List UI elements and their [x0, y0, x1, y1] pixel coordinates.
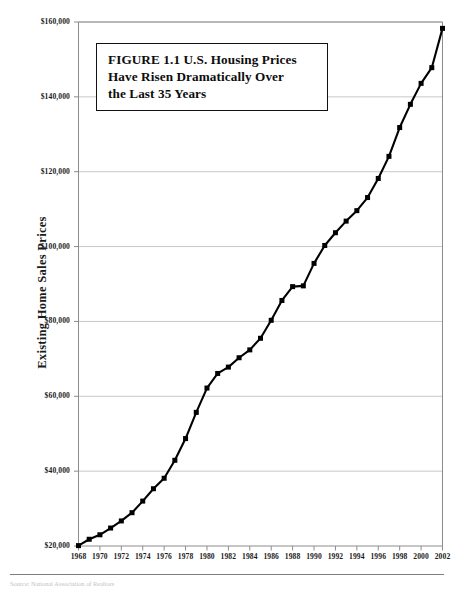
- data-point-1975: [151, 486, 156, 491]
- y-tick-label-160000: $160,000: [8, 17, 70, 26]
- figure-title-line-1: FIGURE 1.1 U.S. Housing Prices: [108, 52, 297, 67]
- figure-title-text: FIGURE 1.1 U.S. Housing Prices Have Rise…: [108, 51, 318, 102]
- y-tick-marks-group: [74, 22, 79, 546]
- y-tick-label-100000: $100,000: [8, 242, 70, 251]
- data-point-1988: [290, 284, 295, 289]
- data-point-1971: [108, 526, 113, 531]
- data-point-1999: [408, 102, 413, 107]
- figure-title-box: FIGURE 1.1 U.S. Housing Prices Have Rise…: [96, 43, 328, 111]
- data-point-1983: [237, 355, 242, 360]
- data-point-1979: [194, 410, 199, 415]
- data-point-1987: [279, 298, 284, 303]
- footer-divider: [10, 574, 444, 575]
- y-tick-label-80000: $80,000: [8, 316, 70, 325]
- y-tick-label-140000: $140,000: [8, 92, 70, 101]
- figure-title-line-3: the Last 35 Years: [108, 86, 206, 101]
- data-point-1976: [162, 476, 167, 481]
- data-point-1984: [247, 347, 252, 352]
- data-point-1980: [204, 386, 209, 391]
- data-point-1969: [87, 537, 92, 542]
- data-point-1977: [172, 458, 177, 463]
- x-tick-marks-group: [79, 546, 443, 551]
- data-point-1986: [269, 318, 274, 323]
- data-point-1994: [354, 208, 359, 213]
- data-point-1974: [140, 499, 145, 504]
- data-point-1997: [386, 154, 391, 159]
- data-point-1985: [258, 336, 263, 341]
- data-point-1968: [76, 543, 81, 548]
- data-point-1998: [397, 125, 402, 130]
- figure-title-line-2: Have Risen Dramatically Over: [108, 69, 284, 84]
- y-tick-label-20000: $20,000: [8, 541, 70, 550]
- data-point-1990: [312, 261, 317, 266]
- data-point-1991: [322, 243, 327, 248]
- figure-container: Existing Home Sales Prices $20,000$40,00…: [0, 0, 454, 591]
- source-note: Source: National Association of Realtors: [10, 580, 310, 591]
- y-tick-label-120000: $120,000: [8, 167, 70, 176]
- data-point-1996: [376, 176, 381, 181]
- data-point-1981: [215, 371, 220, 376]
- data-point-2001: [429, 65, 434, 70]
- data-point-1993: [344, 219, 349, 224]
- data-point-1978: [183, 436, 188, 441]
- data-point-1989: [301, 283, 306, 288]
- data-point-1982: [226, 365, 231, 370]
- data-point-1992: [333, 230, 338, 235]
- y-tick-label-60000: $60,000: [8, 391, 70, 400]
- y-tick-label-40000: $40,000: [8, 466, 70, 475]
- data-point-1995: [365, 195, 370, 200]
- data-point-1972: [119, 518, 124, 523]
- data-point-1970: [97, 532, 102, 537]
- data-point-2000: [419, 81, 424, 86]
- data-point-2002: [440, 26, 445, 31]
- x-tick-label-2002: 2002: [428, 552, 454, 561]
- data-point-1973: [130, 510, 135, 515]
